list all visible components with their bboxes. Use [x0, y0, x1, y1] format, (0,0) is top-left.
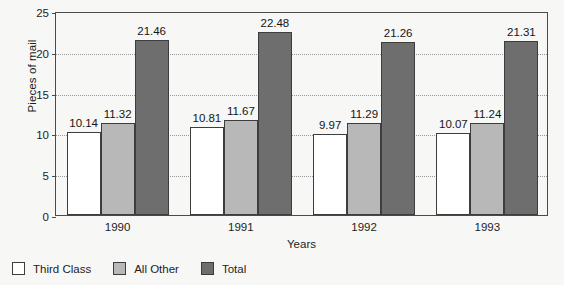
- bar-group: 10.1411.3221.46: [56, 13, 179, 215]
- bar: [504, 41, 538, 215]
- bar-value-label: 21.26: [384, 27, 413, 39]
- bar: [190, 127, 224, 215]
- bar: [347, 123, 381, 215]
- legend-swatch-icon: [113, 262, 126, 275]
- bar-groups: 10.1411.3221.4610.8111.6722.489.9711.292…: [56, 13, 547, 215]
- bar-group: 9.9711.2921.26: [303, 13, 426, 215]
- legend-label: All Other: [134, 263, 179, 275]
- bar-value-label: 11.32: [104, 108, 132, 120]
- bar-value-label: 21.31: [507, 26, 536, 38]
- legend-swatch-icon: [12, 262, 25, 275]
- bar-group: 10.0711.2421.31: [426, 13, 549, 215]
- bar: [67, 132, 101, 215]
- bar-group: 10.8111.6722.48: [179, 13, 302, 215]
- y-axis-tick-label: 5: [43, 170, 49, 182]
- legend: Third ClassAll OtherTotal: [12, 262, 246, 275]
- bar: [258, 32, 292, 215]
- y-axis-tick-mark: [52, 217, 56, 218]
- legend-item: Total: [201, 262, 246, 275]
- bar: [381, 42, 415, 215]
- plot-area: 0510152025 10.1411.3221.4610.8111.6722.4…: [55, 12, 548, 216]
- bar-value-label: 9.97: [319, 119, 341, 131]
- y-axis-tick-label: 15: [36, 89, 49, 101]
- bar-value-label: 11.24: [473, 108, 501, 120]
- legend-swatch-icon: [201, 262, 214, 275]
- y-axis-tick-label: 20: [36, 48, 49, 60]
- x-axis-tick-label: 1993: [475, 221, 501, 233]
- x-axis-tick-label: 1990: [105, 221, 131, 233]
- bar-value-label: 10.14: [69, 117, 98, 129]
- legend-item: Third Class: [12, 262, 91, 275]
- bar: [224, 120, 258, 215]
- bar-value-label: 10.81: [192, 112, 221, 124]
- bar-value-label: 10.07: [439, 118, 468, 130]
- y-axis-tick-label: 10: [36, 129, 49, 141]
- bar: [313, 134, 347, 215]
- bar: [436, 133, 470, 215]
- bar-value-label: 11.29: [350, 108, 378, 120]
- legend-label: Total: [222, 263, 246, 275]
- x-axis-tick-label: 1991: [228, 221, 254, 233]
- x-axis-title: Years: [55, 238, 548, 250]
- legend-item: All Other: [113, 262, 179, 275]
- bar-value-label: 21.46: [137, 25, 166, 37]
- x-axis-tick-label: 1992: [351, 221, 377, 233]
- legend-label: Third Class: [33, 263, 91, 275]
- chart-figure: Pieces of mail 0510152025 10.1411.3221.4…: [0, 0, 564, 285]
- bar: [135, 40, 169, 215]
- y-axis-tick-label: 0: [43, 211, 49, 223]
- bar-value-label: 11.67: [227, 105, 255, 117]
- bar: [470, 123, 504, 215]
- bar-value-label: 22.48: [260, 17, 289, 29]
- y-axis-tick-label: 25: [36, 7, 49, 19]
- bar: [101, 123, 135, 215]
